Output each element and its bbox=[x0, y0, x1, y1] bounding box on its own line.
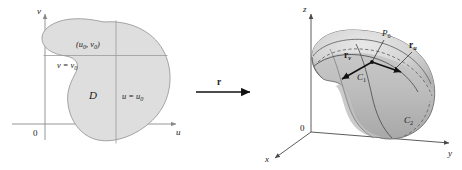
y-axis-label: y bbox=[447, 148, 452, 158]
mapping-arrow-group: r bbox=[196, 77, 250, 92]
curve-C1-sub: 1 bbox=[363, 76, 366, 83]
point-label-open: (u bbox=[76, 40, 83, 49]
uv-plane-panel: v u 0 (u0, v0) v = v0 D u = u0 bbox=[12, 6, 181, 144]
point-P0-sub: 0 bbox=[388, 32, 391, 39]
vector-ru-sub: u bbox=[413, 44, 417, 51]
xyz-origin-label: 0 bbox=[300, 123, 305, 133]
label-v-equals-v0-text: v = v bbox=[57, 61, 75, 70]
point-u0v0-label: (u0, v0) bbox=[76, 40, 100, 50]
z-axis-label: z bbox=[302, 4, 307, 14]
v-axis-label: v bbox=[37, 6, 41, 16]
region-D-label: D bbox=[88, 89, 97, 101]
uv-origin-label: 0 bbox=[33, 128, 38, 138]
svg-text:(u0, v0): (u0, v0) bbox=[76, 40, 100, 50]
figure-container: v u 0 (u0, v0) v = v0 D u = u0 r bbox=[0, 0, 462, 170]
point-label-close: ) bbox=[96, 40, 100, 49]
figure-svg: v u 0 (u0, v0) v = v0 D u = u0 r bbox=[0, 0, 462, 170]
x-axis bbox=[275, 132, 311, 158]
vector-ru-label: ru bbox=[409, 40, 417, 51]
curve-C2-sub: 2 bbox=[410, 119, 413, 126]
label-u-equals-u0-text: u = u bbox=[122, 92, 140, 101]
mapping-arrow-label: r bbox=[217, 77, 221, 87]
point-P0-label: P0 bbox=[381, 28, 391, 39]
region-D-shape bbox=[42, 19, 170, 141]
x-axis-label: x bbox=[264, 154, 269, 164]
label-v-equals-v0: v = v0 bbox=[57, 61, 78, 71]
xyz-space-panel: z y x 0 P0 bbox=[264, 4, 452, 164]
vector-rv-sub: v bbox=[348, 54, 351, 61]
u-axis-label: u bbox=[176, 127, 181, 137]
